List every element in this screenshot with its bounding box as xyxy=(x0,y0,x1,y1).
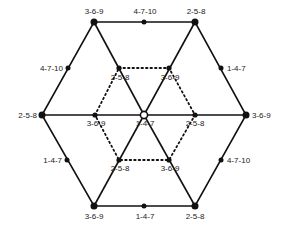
label-inner-upper-left: 2-5-8 xyxy=(111,73,130,82)
label-mid-upper-left: 4-7-10 xyxy=(40,64,64,73)
label-inner-left: 3-6-9 xyxy=(87,119,106,128)
label-inner-right: 2-5-8 xyxy=(186,119,205,128)
label-mid-bottom: 1-4-7 xyxy=(136,212,155,221)
label-inner-upper-right: 3-6-9 xyxy=(161,73,180,82)
hexagon-diagram: 3-6-9 2-5-8 3-6-9 2-5-8 3-6-9 2-5-8 4-7-… xyxy=(0,0,284,225)
label-mid-lower-left: 1-4-7 xyxy=(43,156,62,165)
label-mid-lower-right: 4-7-10 xyxy=(227,156,251,165)
label-mid-upper-right: 1-4-7 xyxy=(227,64,246,73)
label-bottom-left: 3-6-9 xyxy=(85,212,104,221)
label-top-right: 2-5-8 xyxy=(187,7,206,16)
label-mid-top: 4-7-10 xyxy=(133,7,157,16)
label-left: 2-5-8 xyxy=(18,111,37,120)
label-right: 3-6-9 xyxy=(252,111,271,120)
label-bottom-right: 2-5-8 xyxy=(186,212,205,221)
center-node-icon xyxy=(140,111,147,118)
label-top-left: 3-6-9 xyxy=(85,7,104,16)
label-center: 1-4-7 xyxy=(136,119,155,128)
label-inner-lower-left: 2-5-8 xyxy=(111,164,130,173)
label-inner-lower-right: 3-6-9 xyxy=(161,164,180,173)
